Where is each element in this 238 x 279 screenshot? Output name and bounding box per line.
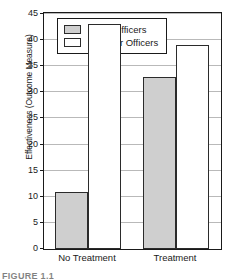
y-axis-tick [40,13,44,14]
y-axis-tick-label: 20 [28,139,38,148]
y-axis-tick [40,170,44,171]
y-axis-tick-label: 45 [28,9,38,18]
y-axis-tick [40,196,44,197]
x-axis-label-no-treatment: No Treatment [37,252,137,263]
figure-bar-chart: Effectiveness (Outcome Measure) 05101520… [0,0,238,279]
y-axis-tick [40,144,44,145]
bar-younger-no-treatment [88,24,121,249]
bar-younger-treatment [176,45,209,249]
figure-caption: FIGURE 1.1 [2,271,54,279]
y-axis-tick-label: 25 [28,113,38,122]
legend-swatch-younger-icon [64,38,81,47]
bar-older-treatment [143,77,176,249]
x-axis-label-treatment: Treatment [125,252,225,263]
y-axis-tick [40,248,44,249]
y-axis-tick-label: 35 [28,61,38,70]
y-axis-tick-label: 40 [28,35,38,44]
bar-older-no-treatment [55,192,88,249]
gridline [44,13,221,14]
y-axis-tick-label: 15 [28,165,38,174]
y-axis-tick-label: 30 [28,87,38,96]
y-axis-tick [40,39,44,40]
legend-swatch-older-icon [64,25,81,34]
y-axis-tick [40,65,44,66]
y-axis-tick-label: 10 [28,191,38,200]
y-axis-tick-label: 5 [33,217,38,226]
y-axis-tick [40,91,44,92]
y-axis-tick [40,117,44,118]
y-axis-tick [40,222,44,223]
